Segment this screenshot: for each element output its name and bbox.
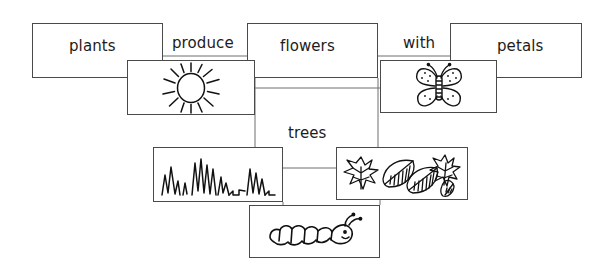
node-label-plants: plants	[69, 39, 116, 54]
node-label-petals: petals	[497, 39, 543, 54]
link-label-produce: produce	[172, 36, 234, 51]
node-box-butterfly[interactable]	[380, 60, 497, 113]
link-label-trees: trees	[288, 126, 327, 141]
node-label-flowers: flowers	[280, 39, 335, 54]
node-box-leaves[interactable]	[336, 147, 468, 200]
node-box-grass[interactable]	[153, 147, 283, 202]
link-label-with: with	[403, 36, 435, 51]
node-box-caterpillar[interactable]	[249, 205, 380, 258]
node-box-sun[interactable]	[127, 60, 255, 115]
concept-map-canvas: plants flowers petals	[0, 0, 614, 271]
